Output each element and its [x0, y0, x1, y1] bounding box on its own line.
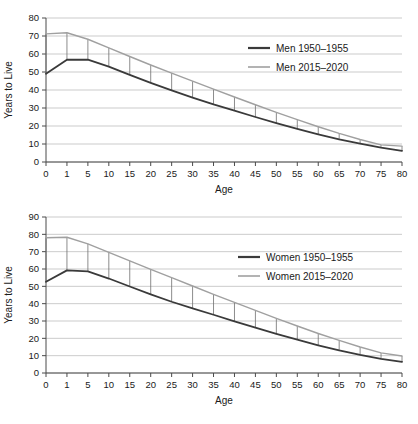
x-tick-label: 60	[313, 168, 324, 179]
x-tick-label: 5	[85, 379, 90, 390]
y-tick-label: 20	[28, 333, 39, 344]
legend-label-1: Men 2015–2020	[276, 62, 349, 73]
x-axis-title: Age	[215, 184, 233, 195]
x-tick-label: 45	[250, 168, 261, 179]
y-tick-label: 90	[28, 211, 39, 222]
x-tick-label: 20	[145, 168, 156, 179]
chart-panel-women: 0102030405060708090015101520253035404550…	[0, 205, 418, 424]
y-tick-label: 50	[28, 281, 39, 292]
x-tick-label: 35	[208, 168, 219, 179]
legend-label-0: Women 1950–1955	[266, 252, 354, 263]
y-tick-label: 50	[28, 66, 39, 77]
y-tick-label: 60	[28, 263, 39, 274]
series-line-dark	[46, 270, 402, 362]
x-tick-label: 5	[85, 168, 90, 179]
x-tick-label: 10	[104, 168, 115, 179]
chart-women-svg: 0102030405060708090015101520253035404550…	[0, 205, 418, 424]
x-tick-label: 25	[166, 379, 177, 390]
y-tick-label: 70	[28, 246, 39, 257]
x-tick-label: 65	[334, 379, 345, 390]
x-tick-label: 0	[43, 379, 48, 390]
chart-panel-men: 0102030405060708001510152025303540455055…	[0, 0, 418, 205]
x-tick-label: 25	[166, 168, 177, 179]
x-tick-label: 80	[397, 379, 408, 390]
y-tick-label: 0	[34, 367, 39, 378]
x-tick-label: 45	[250, 379, 261, 390]
x-tick-label: 20	[145, 379, 156, 390]
series-line-light	[46, 33, 402, 146]
y-tick-label: 20	[28, 120, 39, 131]
x-axis-title: Age	[215, 395, 233, 406]
x-tick-label: 65	[334, 168, 345, 179]
chart-men-svg: 0102030405060708001510152025303540455055…	[0, 0, 418, 205]
x-tick-label: 75	[376, 379, 387, 390]
y-tick-label: 40	[28, 84, 39, 95]
life-expectancy-figure: 0102030405060708001510152025303540455055…	[0, 0, 418, 424]
x-tick-label: 35	[208, 379, 219, 390]
x-tick-label: 50	[271, 379, 282, 390]
x-tick-label: 55	[292, 379, 303, 390]
x-tick-label: 15	[124, 168, 135, 179]
x-tick-label: 10	[104, 379, 115, 390]
y-axis-title: Years to Live	[3, 266, 14, 324]
x-tick-label: 15	[124, 379, 135, 390]
x-tick-label: 70	[355, 168, 366, 179]
x-tick-label: 50	[271, 168, 282, 179]
x-tick-label: 40	[229, 168, 240, 179]
x-tick-label: 60	[313, 379, 324, 390]
x-tick-label: 30	[187, 379, 198, 390]
x-tick-label: 1	[64, 168, 69, 179]
y-tick-label: 0	[34, 156, 39, 167]
y-tick-label: 10	[28, 350, 39, 361]
x-tick-label: 0	[43, 168, 48, 179]
x-tick-label: 70	[355, 379, 366, 390]
x-tick-label: 1	[64, 379, 69, 390]
x-tick-label: 40	[229, 379, 240, 390]
x-tick-label: 30	[187, 168, 198, 179]
y-tick-label: 80	[28, 229, 39, 240]
y-tick-label: 30	[28, 102, 39, 113]
y-tick-label: 30	[28, 315, 39, 326]
y-axis-title: Years to Live	[3, 61, 14, 119]
y-tick-label: 80	[28, 12, 39, 23]
x-tick-label: 55	[292, 168, 303, 179]
series-line-dark	[46, 60, 402, 151]
y-tick-label: 10	[28, 138, 39, 149]
legend-label-1: Women 2015–2020	[266, 271, 354, 282]
legend-label-0: Men 1950–1955	[276, 43, 349, 54]
y-tick-label: 60	[28, 48, 39, 59]
x-tick-label: 80	[397, 168, 408, 179]
y-tick-label: 70	[28, 30, 39, 41]
y-tick-label: 40	[28, 298, 39, 309]
x-tick-label: 75	[376, 168, 387, 179]
